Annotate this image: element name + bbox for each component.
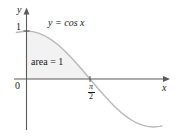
y-tick-label-one: 1	[16, 22, 21, 32]
pi-numerator: π	[84, 83, 98, 91]
figure-canvas	[0, 0, 177, 136]
origin-label: 0	[15, 81, 20, 91]
cosine-area-figure: y x 1 0 y = cos x area = 1 π 2	[0, 0, 177, 136]
shaded-area-region	[27, 31, 91, 79]
y-axis-arrowhead	[24, 8, 30, 15]
x-axis-label: x	[162, 83, 166, 93]
area-annotation-label: area = 1	[31, 57, 63, 67]
y-axis-label: y	[17, 5, 21, 15]
x-tick-label-pi-over-two: π 2	[84, 83, 98, 101]
pi-denominator: 2	[84, 93, 98, 101]
curve-equation-label: y = cos x	[48, 18, 84, 28]
